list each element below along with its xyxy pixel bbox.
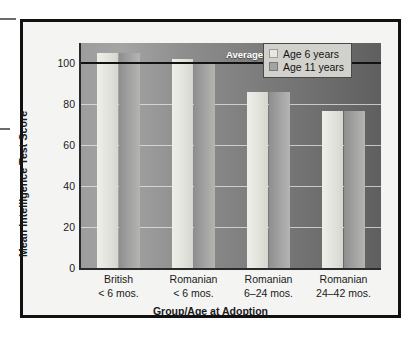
x-axis-category-labels: British< 6 mos.Romanian< 6 mos.Romanian6…	[81, 272, 381, 300]
category-line-1: Romanian	[170, 273, 218, 285]
chart-page: Mean Intelligence Test Score 02040608010…	[0, 0, 420, 343]
y-axis-tick-label: 0	[45, 262, 75, 274]
legend-swatch-icon	[269, 62, 278, 71]
x-axis-category-label: British< 6 mos.	[81, 272, 156, 300]
bar	[97, 53, 118, 268]
y-axis-tick-label: 80	[45, 98, 75, 110]
y-axis-title: Mean Intelligence Test Score	[17, 84, 29, 284]
legend-entry: Age 11 years	[269, 60, 344, 73]
legend-entry: Age 6 years	[269, 47, 344, 60]
y-axis-tick-label: 40	[45, 180, 75, 192]
figure-frame: Mean Intelligence Test Score 02040608010…	[20, 19, 401, 318]
x-axis-category-label: Romanian6–24 mos.	[231, 272, 306, 300]
legend-label: Age 6 years	[283, 48, 339, 60]
category-line-1: Romanian	[245, 273, 293, 285]
page-edge-mark-top	[0, 18, 16, 20]
x-axis-category-label: Romanian< 6 mos.	[156, 272, 231, 300]
bar	[172, 59, 193, 268]
category-line-1: British	[104, 273, 133, 285]
category-line-2: 24–42 mos.	[306, 286, 381, 300]
x-axis-title: Group/Age at Adoption	[23, 305, 398, 317]
y-axis-tick-label: 20	[45, 221, 75, 233]
page-edge-mark-middle	[0, 128, 10, 130]
y-axis-tick-labels: 020406080100	[45, 22, 75, 315]
bar	[322, 111, 343, 269]
y-axis-tick-label: 100	[45, 57, 75, 69]
y-axis-tick-label: 60	[45, 139, 75, 151]
legend-swatch-icon	[269, 49, 278, 58]
category-line-2: < 6 mos.	[156, 286, 231, 300]
category-line-1: Romanian	[320, 273, 368, 285]
category-line-2: < 6 mos.	[81, 286, 156, 300]
chart-legend: Age 6 yearsAge 11 years	[263, 43, 352, 78]
bar	[194, 63, 215, 268]
bar	[247, 92, 268, 268]
bar	[344, 111, 365, 269]
bar	[119, 53, 140, 268]
category-line-2: 6–24 mos.	[231, 286, 306, 300]
bar	[269, 92, 290, 268]
x-axis-category-label: Romanian24–42 mos.	[306, 272, 381, 300]
legend-label: Age 11 years	[283, 61, 344, 73]
